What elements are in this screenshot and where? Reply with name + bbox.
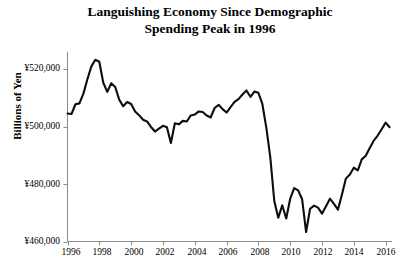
- data-series-line: [68, 60, 390, 232]
- chart-plot-area: [0, 0, 406, 267]
- x-axis-ticks: [69, 242, 387, 246]
- y-axis-ticks: [64, 70, 68, 243]
- chart-page: Languishing Economy Since Demographic Sp…: [0, 0, 406, 267]
